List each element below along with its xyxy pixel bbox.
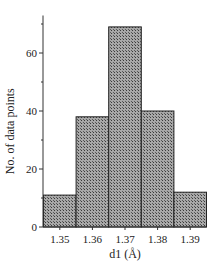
- x-tick-label: 1.38: [148, 233, 168, 245]
- y-tick-label: 40: [26, 105, 38, 117]
- bar-1.38: [141, 111, 174, 227]
- y-axis-title: No. of data points: [3, 88, 17, 174]
- y-tick-label: 60: [26, 47, 38, 59]
- bar-1.39: [174, 192, 207, 227]
- y-tick-labels: 0204060: [26, 47, 38, 233]
- x-axis-title: d1 (Å): [109, 247, 141, 261]
- histogram-chart: 1.351.361.371.381.39 0204060 d1 (Å) No. …: [0, 0, 213, 265]
- x-tick-label: 1.35: [50, 233, 70, 245]
- x-tick-label: 1.36: [83, 233, 103, 245]
- bars-group: [44, 27, 207, 227]
- y-tick-label: 20: [26, 163, 38, 175]
- y-tick-label: 0: [32, 221, 38, 233]
- bar-1.36: [76, 117, 109, 227]
- x-tick-label: 1.37: [115, 233, 135, 245]
- bar-1.35: [44, 195, 77, 227]
- bar-1.37: [109, 27, 142, 227]
- x-tick-labels: 1.351.361.371.381.39: [50, 233, 200, 245]
- x-tick-label: 1.39: [181, 233, 201, 245]
